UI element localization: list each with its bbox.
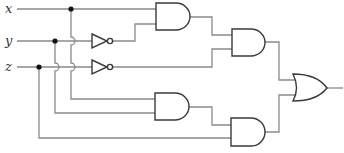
wire-and1-out bbox=[190, 17, 232, 35]
wire-x-branch bbox=[71, 9, 155, 99]
and-gate-2 bbox=[232, 29, 265, 56]
wire-not2-out bbox=[113, 49, 232, 67]
wire-and4-out bbox=[265, 95, 296, 132]
wire-and2-out bbox=[265, 42, 296, 80]
junction-dot-x bbox=[68, 6, 73, 11]
wire-and3-out bbox=[189, 107, 231, 125]
input-label-x: x bbox=[5, 1, 13, 16]
junction-dot-z bbox=[36, 64, 41, 69]
wire-y-branch bbox=[55, 41, 155, 113]
and-gate-4 bbox=[231, 118, 265, 146]
and-gate-1 bbox=[156, 3, 190, 30]
and-gate-3 bbox=[155, 93, 189, 120]
wire-not1-out bbox=[113, 24, 156, 41]
wire-z-branch bbox=[39, 67, 231, 138]
input-label-y: y bbox=[4, 33, 13, 48]
logic-circuit-diagram: x y z bbox=[0, 0, 344, 153]
not-gate-z bbox=[92, 60, 113, 74]
not-gate-y bbox=[92, 34, 113, 48]
input-label-z: z bbox=[4, 59, 12, 74]
or-gate bbox=[293, 74, 327, 101]
junction-dot-y bbox=[52, 38, 57, 43]
